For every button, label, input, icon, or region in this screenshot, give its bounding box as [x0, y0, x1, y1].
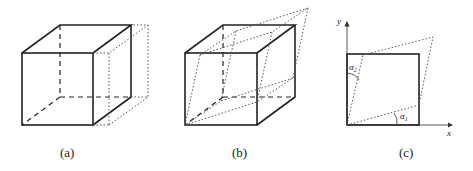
panel-c: y x α2 α1 (c) — [336, 16, 452, 160]
cube-b-solid — [185, 25, 295, 125]
caption-b: (b) — [232, 145, 247, 160]
angle1-label: α1 — [400, 111, 408, 122]
cube-a-sheared-dotted — [93, 25, 148, 125]
angle1-arc — [394, 113, 397, 125]
caption-a: (a) — [60, 145, 74, 160]
x-axis-label: x — [446, 128, 451, 138]
caption-c: (c) — [399, 145, 413, 160]
shear-deformation-diagram: (a) (b) y x α2 α1 (c) — [0, 0, 473, 171]
panel-b: (b) — [185, 8, 308, 160]
angle2-label: α2 — [349, 62, 357, 73]
panel-a: (a) — [22, 25, 148, 160]
angle2-arc — [347, 73, 359, 80]
square-c — [347, 54, 419, 125]
cube-a-solid — [22, 25, 131, 125]
y-axis-label: y — [336, 16, 341, 26]
rhombus-c-dotted — [347, 37, 433, 125]
